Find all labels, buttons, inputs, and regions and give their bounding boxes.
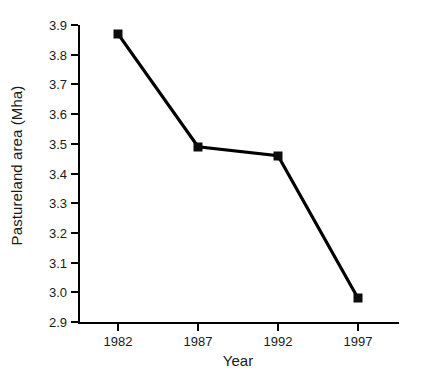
x-axis-tick: 1997 [357,324,359,331]
y-axis-tick-label: 3.8 [49,47,67,62]
y-axis-tick: 3.5 [71,143,78,145]
x-axis-tick-label: 1997 [344,334,373,349]
x-axis-tick: 1992 [277,324,279,331]
y-axis-tick-label: 3.3 [49,196,67,211]
y-axis-tick: 2.9 [71,321,78,323]
y-axis-tick-label: 3.4 [49,166,67,181]
y-axis-tick: 3.0 [71,291,78,293]
y-axis-tick-label: 3.9 [49,18,67,33]
y-axis-tick: 3.6 [71,113,78,115]
data-point [274,151,283,160]
x-axis-tick-label: 1992 [264,334,293,349]
x-axis-title: Year [78,352,398,369]
chart-figure: Pastureland area (Mha) 2.93.03.13.23.33.… [0,0,422,388]
y-axis-tick-label: 3.0 [49,285,67,300]
y-axis-tick: 3.4 [71,173,78,175]
data-point [114,29,123,38]
y-axis-tick: 3.8 [71,54,78,56]
y-axis-tick-label: 3.7 [49,77,67,92]
y-axis-tick-label: 3.6 [49,107,67,122]
y-axis-tick: 3.2 [71,232,78,234]
x-axis-tick-label: 1982 [104,334,133,349]
data-point [354,294,363,303]
y-axis-tick-label: 3.2 [49,225,67,240]
x-axis-tick-label: 1987 [184,334,213,349]
y-axis-tick: 3.3 [71,202,78,204]
data-line [78,25,398,324]
x-axis-tick: 1987 [197,324,199,331]
y-axis-title: Pastureland area (Mha) [0,0,34,330]
y-axis-tick-label: 3.5 [49,136,67,151]
y-axis-tick: 3.9 [71,24,78,26]
y-axis-title-text: Pastureland area (Mha) [9,85,26,245]
y-axis-tick: 3.1 [71,262,78,264]
data-point [194,142,203,151]
y-axis-tick-label: 2.9 [49,315,67,330]
y-axis-tick: 3.7 [71,83,78,85]
x-axis-tick: 1982 [117,324,119,331]
y-axis-tick-label: 3.1 [49,255,67,270]
plot-area: 2.93.03.13.23.33.43.53.63.73.83.9 198219… [78,25,398,323]
